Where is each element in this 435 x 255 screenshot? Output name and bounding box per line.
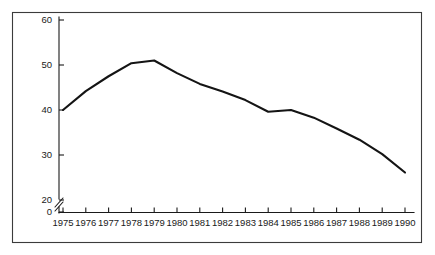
x-tick-label-1980: 1980	[166, 217, 187, 228]
x-tick-label-1986: 1986	[303, 217, 324, 228]
x-tick-label-1978: 1978	[121, 217, 142, 228]
y-tick-label-40: 40	[41, 104, 52, 115]
x-tick-label-1981: 1981	[189, 217, 210, 228]
y-tick-label-60: 60	[41, 14, 52, 25]
x-tick-label-1984: 1984	[258, 217, 279, 228]
x-tick-label-1987: 1987	[326, 217, 347, 228]
x-tick-label-1983: 1983	[235, 217, 256, 228]
x-tick-label-1979: 1979	[144, 217, 165, 228]
x-tick-label-1975: 1975	[52, 217, 73, 228]
x-tick-label-1976: 1976	[75, 217, 96, 228]
y-tick-label-0: 0	[47, 206, 52, 217]
line-chart-canvas: 02030405060 1975197619771978197919801981…	[0, 0, 435, 255]
x-tick-labels: 1975197619771978197919801981198219831984…	[52, 217, 415, 228]
y-tick-label-20: 20	[41, 194, 52, 205]
y-tick-label-50: 50	[41, 59, 52, 70]
y-tick-label-30: 30	[41, 149, 52, 160]
x-tick-label-1988: 1988	[349, 217, 370, 228]
x-tick-label-1990: 1990	[394, 217, 415, 228]
x-tick-label-1985: 1985	[280, 217, 301, 228]
x-tick-label-1977: 1977	[98, 217, 119, 228]
x-tick-label-1982: 1982	[212, 217, 233, 228]
chart-figure: 02030405060 1975197619771978197919801981…	[0, 0, 435, 255]
x-tick-label-1989: 1989	[372, 217, 393, 228]
